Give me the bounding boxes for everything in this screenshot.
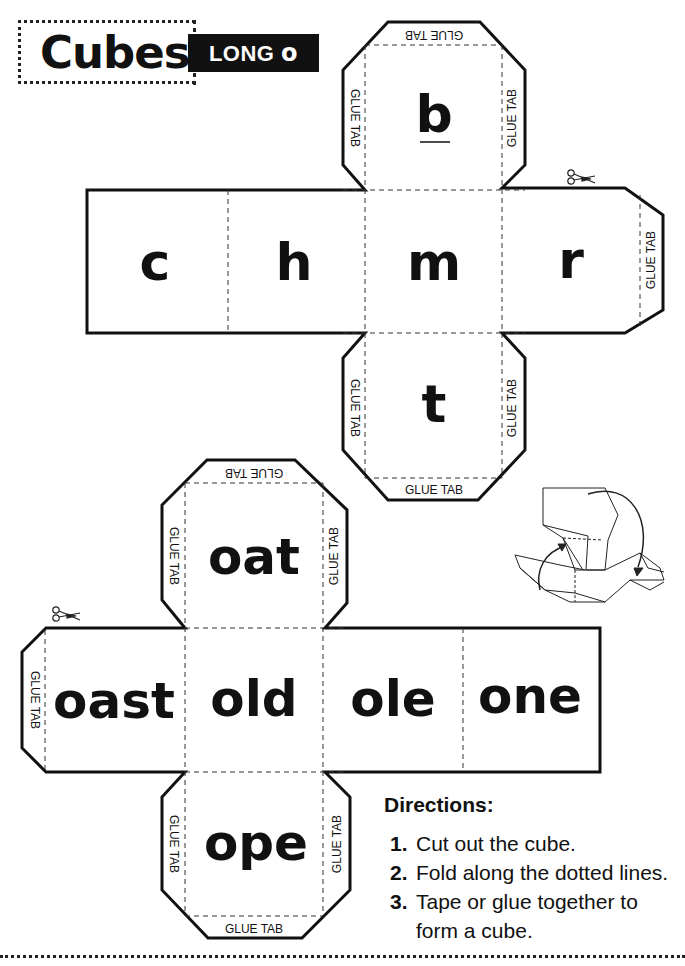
directions-panel: Directions: 1.Cut out the cube. 2.Fold a… [384, 793, 668, 945]
glue-tab-label: GLUE TAB [405, 28, 463, 42]
glue-tab-label: GLUE TAB [505, 89, 519, 147]
step-number: 3. [390, 887, 416, 945]
glue-tab-label: GLUE TAB [167, 527, 181, 585]
face-letter: t [422, 374, 447, 434]
step-text: Fold along the dotted lines. [416, 858, 668, 887]
face-letter: r [558, 230, 584, 290]
scissors-icon [53, 607, 80, 621]
step-text: Cut out the cube. [416, 829, 576, 858]
step-number: 1. [390, 829, 416, 858]
direction-step: 1.Cut out the cube. [384, 829, 668, 858]
face-letter: m [407, 232, 461, 292]
face-letter: c [140, 232, 171, 292]
cube-folding-illustration [515, 488, 664, 602]
glue-tab-label: GLUE TAB [167, 815, 181, 873]
face-word: oast [53, 672, 175, 730]
glue-tab-label: GLUE TAB [225, 466, 283, 480]
glue-tab-label: GLUE TAB [225, 922, 283, 936]
direction-step: 3.Tape or glue together to form a cube. [384, 887, 655, 945]
glue-tab-label: GLUE TAB [327, 527, 341, 585]
glue-tab-label: GLUE TAB [644, 231, 658, 289]
face-word: old [210, 670, 297, 728]
glue-tab-label: GLUE TAB [330, 815, 344, 873]
face-word: one [478, 667, 582, 725]
bottom-dotted-rule [0, 955, 685, 958]
scissors-icon [568, 170, 595, 184]
step-text: Tape or glue together to form a cube. [416, 887, 655, 945]
face-word: ope [204, 814, 308, 872]
directions-list: 1.Cut out the cube. 2.Fold along the dot… [384, 829, 668, 945]
step-number: 2. [390, 858, 416, 887]
glue-tab-label: GLUE TAB [505, 379, 519, 437]
face-word: oat [208, 528, 300, 586]
glue-tab-label: GLUE TAB [405, 483, 463, 497]
face-letter: h [275, 232, 312, 292]
face-word: ole [350, 670, 435, 728]
glue-tab-label: GLUE TAB [348, 89, 362, 147]
glue-tab-label: GLUE TAB [28, 671, 42, 729]
direction-step: 2.Fold along the dotted lines. [384, 858, 668, 887]
glue-tab-label: GLUE TAB [348, 379, 362, 437]
directions-title: Directions: [384, 793, 668, 817]
face-letter: b [415, 84, 452, 144]
